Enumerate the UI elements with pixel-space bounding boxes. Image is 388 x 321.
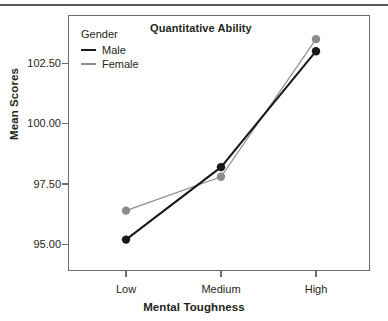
y-tick-mark — [62, 123, 68, 125]
x-axis-label: Mental Toughness — [0, 301, 388, 313]
x-tick-mark — [220, 271, 222, 277]
x-tick-label: Medium — [181, 284, 261, 295]
page-top-rule — [0, 4, 388, 6]
y-tick-mark — [62, 183, 68, 185]
y-tick-label: 97.50 — [5, 179, 61, 190]
x-tick-label: High — [276, 284, 356, 295]
y-tick-label: 100.00 — [5, 118, 61, 129]
legend-swatch-male — [81, 49, 96, 51]
y-tick-mark — [62, 63, 68, 65]
legend-label-male: Male — [102, 43, 126, 57]
legend-item-male: Male — [81, 43, 139, 57]
legend-swatch-female — [81, 63, 96, 64]
legend-item-female: Female — [81, 57, 139, 71]
legend-title: Gender — [81, 27, 139, 41]
x-tick-label: Low — [86, 284, 166, 295]
chart-title: Quantitative Ability — [150, 22, 252, 34]
y-tick-label: 95.00 — [5, 239, 61, 250]
x-tick-mark — [315, 271, 317, 277]
legend: Gender Male Female — [81, 27, 139, 71]
y-tick-mark — [62, 244, 68, 246]
y-tick-label: 102.50 — [5, 58, 61, 69]
x-tick-mark — [125, 271, 127, 277]
legend-label-female: Female — [102, 57, 139, 71]
